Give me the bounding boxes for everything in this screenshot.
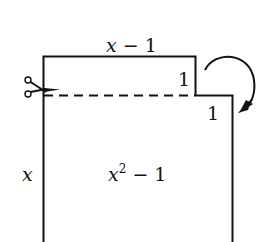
shape-outline <box>44 57 233 242</box>
step-width-label-lower: 1 <box>207 102 219 124</box>
side-height-label: x <box>22 163 33 185</box>
top-width-label: x − 1 <box>106 34 157 56</box>
area-label: x2 − 1 <box>108 162 166 185</box>
square-cut-diagram: x − 1 1 1 x x2 − 1 <box>0 0 272 242</box>
step-height-label-upper: 1 <box>178 68 190 90</box>
